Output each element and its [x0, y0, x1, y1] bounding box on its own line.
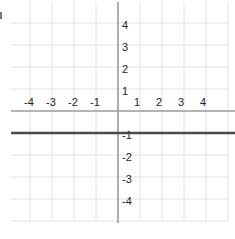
x-tick-label: 1	[134, 96, 140, 108]
y-tick-label: 3	[122, 41, 128, 53]
y-tick-label: -1	[122, 129, 132, 141]
x-tick-label: 3	[178, 96, 184, 108]
y-tick-label: -4	[122, 195, 132, 207]
coordinate-plane: -4-3-2-11234 4321-1-2-3-4	[0, 0, 235, 239]
y-tick-label: -2	[122, 151, 132, 163]
x-tick-label: -1	[90, 96, 100, 108]
x-tick-labels: -4-3-2-11234	[24, 96, 206, 108]
x-tick-label: -3	[46, 96, 56, 108]
y-tick-labels: 4321-1-2-3-4	[122, 19, 132, 207]
y-tick-label: -3	[122, 173, 132, 185]
y-tick-label: 4	[122, 19, 128, 31]
x-tick-label: -4	[24, 96, 34, 108]
axes	[11, 2, 235, 223]
y-tick-label: 2	[122, 63, 128, 75]
y-tick-label: 1	[122, 85, 128, 97]
x-tick-label: 4	[200, 96, 206, 108]
x-tick-label: 2	[156, 96, 162, 108]
x-tick-label: -2	[68, 96, 78, 108]
